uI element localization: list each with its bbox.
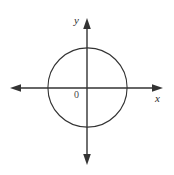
x-axis-right-arrow-icon <box>152 84 163 92</box>
y-axis-up-arrow-icon <box>83 18 91 29</box>
coordinate-plane-figure: y x 0 <box>0 0 174 175</box>
y-axis-label: y <box>74 15 79 26</box>
circle-on-axes-graphic <box>0 0 174 175</box>
x-axis-label: x <box>155 93 160 104</box>
x-axis-left-arrow-icon <box>10 84 21 92</box>
y-axis-down-arrow-icon <box>83 154 91 165</box>
origin-label: 0 <box>74 90 79 100</box>
